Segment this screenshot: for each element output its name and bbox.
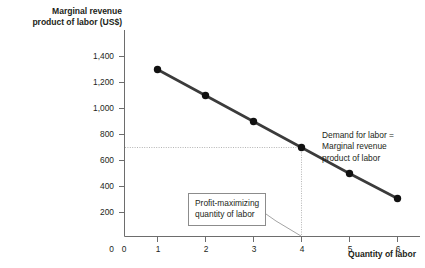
demand-curve-label: Demand for labor = Marginal revenue prod… bbox=[322, 130, 394, 164]
y-tick-label-0: 0 bbox=[80, 244, 114, 254]
x-axis-ticks bbox=[158, 237, 398, 243]
data-point-2 bbox=[202, 92, 209, 99]
y-tick-label-400: 400 bbox=[80, 181, 114, 191]
data-point-5 bbox=[346, 170, 353, 177]
x-tick-label-5: 5 bbox=[340, 244, 360, 254]
x-tick-label-4: 4 bbox=[292, 244, 312, 254]
x-tick-label-3: 3 bbox=[244, 244, 264, 254]
callout-line2: quantity of labor bbox=[195, 209, 255, 219]
chart-figure: Marginal revenue product of labor (US$) … bbox=[0, 0, 425, 268]
y-tick-label-600: 600 bbox=[80, 155, 114, 165]
demand-label-line1: Demand for labor = bbox=[322, 130, 394, 140]
y-tick-label-1000: 1,000 bbox=[80, 103, 114, 113]
data-point-6 bbox=[394, 195, 401, 202]
callout-line1: Profit-maximizing bbox=[195, 198, 259, 208]
y-axis-title-line2: product of labor (US$) bbox=[32, 17, 122, 27]
y-axis-title-line1: Marginal revenue bbox=[52, 6, 122, 16]
x-tick-label-2: 2 bbox=[196, 244, 216, 254]
profit-maximizing-callout: Profit-maximizing quantity of labor bbox=[188, 193, 266, 226]
data-point-4 bbox=[298, 144, 305, 151]
y-tick-label-1200: 1,200 bbox=[80, 77, 114, 87]
x-tick-label-0: 0 bbox=[114, 244, 134, 254]
demand-label-line2: Marginal revenue bbox=[322, 141, 387, 151]
x-tick-label-1: 1 bbox=[148, 244, 168, 254]
y-tick-label-800: 800 bbox=[80, 129, 114, 139]
y-tick-label-200: 200 bbox=[80, 207, 114, 217]
y-axis-title: Marginal revenue product of labor (US$) bbox=[14, 6, 122, 28]
callout-leader-line bbox=[266, 214, 301, 236]
y-tick-label-1400: 1,400 bbox=[80, 51, 114, 61]
x-tick-label-6: 6 bbox=[388, 244, 408, 254]
demand-label-line3: product of labor bbox=[322, 153, 380, 163]
data-point-3 bbox=[250, 118, 257, 125]
data-point-1 bbox=[154, 66, 161, 73]
y-axis-ticks bbox=[119, 57, 125, 213]
